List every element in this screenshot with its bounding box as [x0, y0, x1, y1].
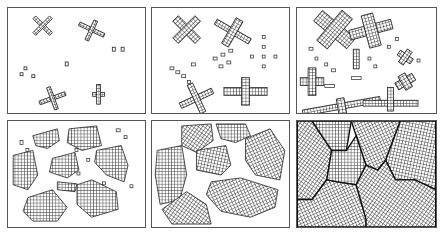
- early-growth-illustration: [152, 8, 289, 113]
- panel-5-grain-impingement: [151, 120, 290, 228]
- panel-2-early-growth: [151, 7, 290, 114]
- panel-4-grain-coarsening: [7, 120, 146, 228]
- nucleation-illustration: [8, 8, 145, 113]
- dendritic-growth-illustration: [297, 8, 436, 113]
- polycrystal-illustration: [297, 121, 436, 227]
- grain-impingement-illustration: [152, 121, 289, 227]
- grain-coarsening-illustration: [8, 121, 145, 227]
- panel-6-polycrystal: [296, 120, 437, 228]
- panel-1-nucleation: [7, 7, 146, 114]
- panel-3-dendritic-growth: [296, 7, 437, 114]
